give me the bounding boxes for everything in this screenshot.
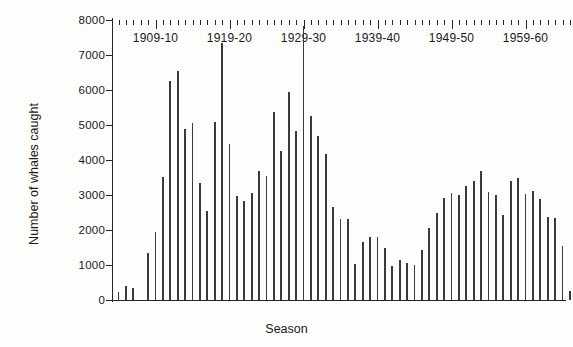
x-tick-minor xyxy=(281,20,282,25)
bar xyxy=(288,92,290,300)
x-tick-minor xyxy=(163,20,164,25)
y-axis-title: Number of whales caught xyxy=(27,103,41,245)
x-axis-line xyxy=(110,300,566,301)
x-tick-minor xyxy=(207,20,208,25)
x-tick-label: 1909-10 xyxy=(133,31,178,45)
x-tick-minor xyxy=(496,20,497,25)
bar xyxy=(266,176,268,300)
x-tick-minor xyxy=(244,20,245,25)
y-tick xyxy=(106,230,112,231)
bar xyxy=(428,228,430,300)
y-tick xyxy=(106,160,112,161)
x-tick-minor xyxy=(444,20,445,25)
y-tick-label: 2000 xyxy=(79,224,105,236)
bar xyxy=(451,193,453,300)
x-axis-title: Season xyxy=(0,322,573,336)
x-tick-minor xyxy=(148,20,149,25)
bar xyxy=(155,232,157,300)
x-tick-minor xyxy=(222,20,223,25)
bar xyxy=(443,198,445,300)
bar xyxy=(162,177,164,300)
x-tick-minor xyxy=(185,20,186,25)
bar xyxy=(458,195,460,300)
y-tick xyxy=(106,195,112,196)
bar xyxy=(273,112,275,300)
bar xyxy=(406,263,408,300)
bar xyxy=(332,207,334,300)
bar xyxy=(347,219,349,300)
x-tick-major xyxy=(378,20,379,29)
bar xyxy=(502,215,504,300)
x-tick-minor xyxy=(489,20,490,25)
bar xyxy=(436,213,438,300)
bar xyxy=(132,288,134,300)
y-tick xyxy=(106,20,112,21)
bar xyxy=(391,266,393,300)
x-tick-minor xyxy=(348,20,349,25)
x-tick-minor xyxy=(252,20,253,25)
bar xyxy=(125,286,127,300)
bar xyxy=(206,211,208,300)
bar xyxy=(280,151,282,300)
x-tick-minor xyxy=(474,20,475,25)
x-tick-minor xyxy=(555,20,556,25)
x-tick-minor xyxy=(466,20,467,25)
bar xyxy=(488,192,490,301)
bar xyxy=(414,265,416,300)
x-tick-minor xyxy=(237,20,238,25)
x-tick-major xyxy=(156,20,157,29)
x-tick-minor xyxy=(355,20,356,25)
x-tick-minor xyxy=(459,20,460,25)
x-tick-minor xyxy=(133,20,134,25)
x-tick-minor xyxy=(333,20,334,25)
y-tick xyxy=(106,125,112,126)
bar xyxy=(325,154,327,300)
bar xyxy=(362,242,364,300)
bar xyxy=(199,183,201,300)
bar xyxy=(525,194,527,300)
x-tick-minor xyxy=(274,20,275,25)
bar xyxy=(480,171,482,301)
x-tick-minor xyxy=(533,20,534,25)
x-tick-minor xyxy=(341,20,342,25)
x-tick-minor xyxy=(267,20,268,25)
bar xyxy=(177,71,179,300)
bar xyxy=(399,260,401,300)
bar xyxy=(354,264,356,300)
bar xyxy=(421,250,423,300)
x-tick-minor xyxy=(126,20,127,25)
bar xyxy=(495,195,497,300)
x-tick-minor xyxy=(259,20,260,25)
x-tick-minor xyxy=(429,20,430,25)
y-tick xyxy=(106,300,112,301)
y-tick-label: 1000 xyxy=(79,259,105,271)
x-tick-minor xyxy=(296,20,297,25)
x-tick-label: 1919-20 xyxy=(207,31,252,45)
x-tick-minor xyxy=(318,20,319,25)
bar xyxy=(554,218,556,300)
x-tick-major xyxy=(526,20,527,29)
x-tick-minor xyxy=(511,20,512,25)
x-tick-minor xyxy=(170,20,171,25)
x-tick-label: 1959-60 xyxy=(503,31,548,45)
y-tick-label: 0 xyxy=(98,294,105,306)
y-tick xyxy=(106,55,112,56)
bar xyxy=(539,199,541,300)
bar xyxy=(473,181,475,300)
x-tick-minor xyxy=(311,20,312,25)
y-tick xyxy=(106,90,112,91)
x-tick-minor xyxy=(503,20,504,25)
x-tick-major xyxy=(230,20,231,29)
y-tick-label: 4000 xyxy=(79,154,105,166)
bar xyxy=(569,291,571,300)
bar xyxy=(236,196,238,300)
x-tick-minor xyxy=(215,20,216,25)
x-tick-minor xyxy=(570,20,571,25)
bar xyxy=(229,144,231,300)
bar xyxy=(377,237,379,300)
x-tick-minor xyxy=(289,20,290,25)
bar xyxy=(221,43,223,300)
x-tick-minor xyxy=(400,20,401,25)
y-tick-label: 3000 xyxy=(79,189,105,201)
bar xyxy=(547,217,549,300)
